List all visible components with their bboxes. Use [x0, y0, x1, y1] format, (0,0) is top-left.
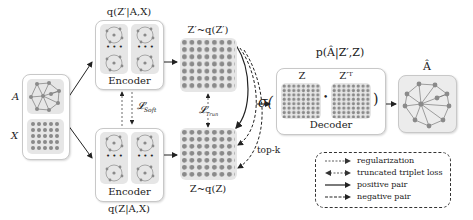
decoder-title: p(Â|Z′,Z) — [290, 46, 390, 59]
feature-grid-icon — [27, 119, 64, 154]
output-label: Â — [415, 60, 439, 73]
dashed-arrow-icon — [324, 157, 352, 165]
decoder-z-grid — [281, 83, 321, 119]
input-panel — [22, 74, 70, 160]
embedding-grid-icon — [331, 83, 371, 119]
ellipsis: • • • — [106, 43, 123, 51]
ellipsis: • • • — [137, 152, 154, 160]
output-graph-tile — [398, 75, 457, 133]
bottom-encoder-title: q(Z|A,X) — [95, 203, 163, 214]
soft-loss-label: 𝓛Soft — [137, 100, 156, 113]
top-encoder-title: q(Z′|A,X) — [95, 6, 163, 17]
sigma-label: σ( — [258, 94, 273, 110]
arrow-input-to-top-encoder — [68, 62, 92, 98]
arrow-input-to-bottom-encoder — [68, 125, 92, 158]
zprime-label: Z′~q(Z′) — [178, 24, 238, 35]
legend-box: regularization truncated triplet loss po… — [315, 152, 451, 208]
embedding-grid-icon — [281, 83, 321, 119]
decoder-zt-label: Z′ᵀ — [331, 70, 361, 81]
legend-label: negative pair — [357, 192, 411, 201]
legend-item-negative-pair: negative pair — [324, 192, 411, 201]
legend-label: truncated triplet loss — [357, 168, 443, 177]
positive-pair-curve — [236, 45, 248, 128]
z-label: Z~q(Z) — [178, 183, 238, 194]
ellipsis: • • • — [106, 152, 123, 160]
a-label: A — [12, 91, 19, 102]
dot-product: • — [323, 92, 328, 102]
top-encoder-panel: • • • • • • Encoder — [95, 20, 164, 90]
legend-item-truncated-triplet-loss: truncated triplet loss — [324, 168, 443, 177]
decoder-z-label: Z — [287, 70, 317, 81]
graph-icon — [27, 79, 64, 114]
embedding-grid-icon — [180, 128, 237, 180]
trun-loss-label: 𝓛Trun — [199, 104, 218, 117]
topk-label: top-k — [257, 145, 280, 155]
adjacency-graph-tile — [27, 79, 64, 114]
embedding-grid-icon — [180, 38, 237, 92]
legend-label: regularization — [357, 156, 414, 165]
feature-matrix-tile — [27, 119, 64, 154]
double-dashed-arrow-icon — [324, 169, 352, 177]
bottom-encoder-label: Encoder — [96, 186, 163, 197]
top-encoder-label: Encoder — [96, 75, 163, 86]
decoder-panel: Z Z′ᵀ • ) Decoder — [276, 68, 386, 135]
legend-label: positive pair — [357, 180, 407, 189]
legend-item-regularization: regularization — [324, 156, 414, 165]
legend-item-positive-pair: positive pair — [324, 180, 407, 189]
ellipsis: • • • — [137, 43, 154, 51]
decoder-zt-grid — [331, 83, 371, 119]
close-paren: ) — [373, 91, 378, 107]
dashed-bold-arrow-icon — [324, 193, 352, 201]
z-embedding-grid — [180, 128, 237, 180]
x-label: X — [11, 130, 18, 141]
solid-arrow-icon — [324, 181, 352, 189]
zprime-embedding-grid — [180, 38, 237, 92]
decoder-label: Decoder — [277, 119, 385, 130]
graph-icon — [399, 76, 456, 132]
bottom-encoder-panel: • • • • • • Encoder — [95, 128, 164, 202]
